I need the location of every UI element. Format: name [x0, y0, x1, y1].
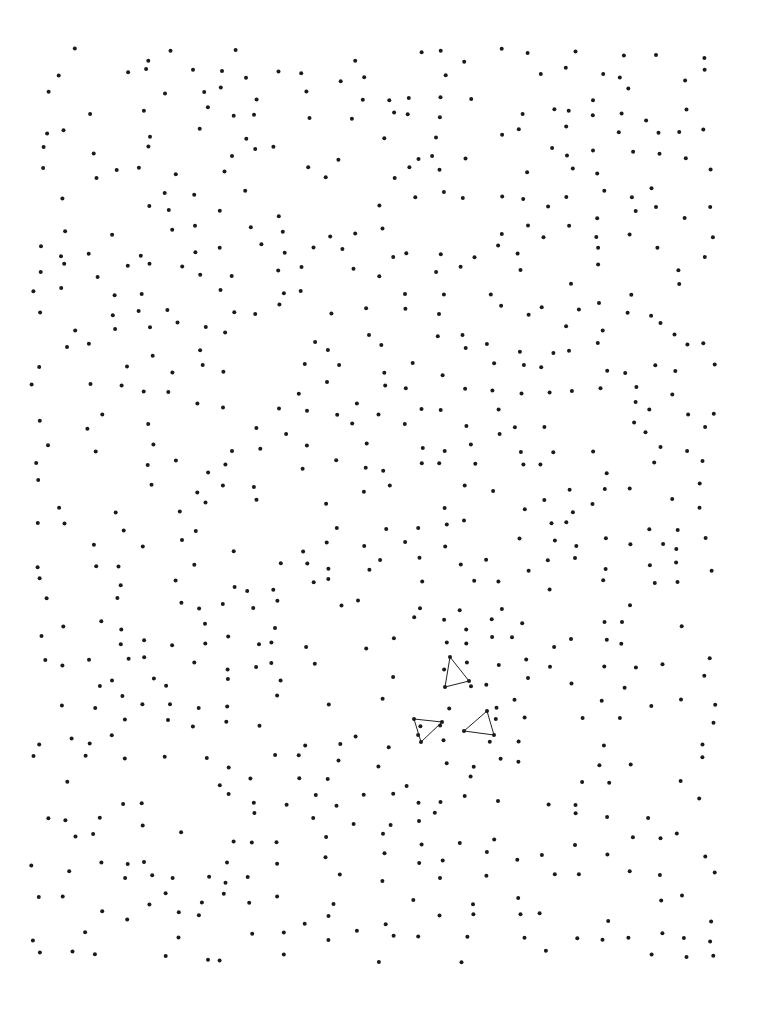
- dot: [279, 561, 283, 565]
- dot: [411, 361, 415, 365]
- dot: [224, 881, 228, 885]
- dot: [308, 116, 312, 120]
- dot: [622, 53, 626, 57]
- dot: [152, 676, 156, 680]
- dot: [282, 931, 286, 935]
- dot: [628, 603, 632, 607]
- dot: [123, 876, 127, 880]
- dot: [248, 776, 252, 780]
- dot: [337, 759, 341, 763]
- dot: [464, 346, 468, 350]
- dot: [257, 642, 261, 646]
- dot: [258, 724, 262, 728]
- dot: [626, 936, 630, 940]
- dot: [194, 529, 198, 533]
- dot: [492, 361, 496, 365]
- dot: [464, 628, 468, 632]
- dot: [31, 289, 35, 293]
- dot: [469, 775, 473, 779]
- dot: [698, 481, 702, 485]
- dot: [340, 604, 344, 608]
- dot: [657, 131, 661, 135]
- dot: [43, 658, 47, 662]
- dot: [303, 922, 307, 926]
- dot: [516, 896, 520, 900]
- dot: [367, 568, 371, 572]
- dot: [603, 620, 607, 624]
- dot: [206, 471, 210, 475]
- dot: [243, 189, 247, 193]
- dot: [335, 526, 339, 530]
- dot: [382, 136, 386, 140]
- dot: [382, 371, 386, 375]
- dot: [45, 131, 49, 135]
- dot: [603, 487, 607, 491]
- dot: [659, 836, 663, 840]
- dot: [647, 527, 651, 531]
- dot: [712, 412, 716, 416]
- dot: [122, 529, 126, 533]
- dot: [303, 362, 307, 366]
- dot: [569, 637, 573, 641]
- dot: [98, 816, 102, 820]
- dot: [383, 383, 387, 387]
- dot: [571, 510, 575, 514]
- dot: [275, 840, 279, 844]
- dot: [634, 385, 638, 389]
- dot: [521, 463, 525, 467]
- dot: [110, 679, 114, 683]
- dot: [38, 576, 42, 580]
- dot: [340, 247, 344, 251]
- dot: [326, 938, 330, 942]
- dot: [404, 386, 408, 390]
- dot: [140, 801, 144, 805]
- dot: [114, 511, 118, 515]
- dot: [604, 567, 608, 571]
- dot: [628, 233, 632, 237]
- dot: [650, 186, 654, 190]
- dot: [303, 743, 307, 747]
- dot: [203, 622, 207, 626]
- dot: [202, 90, 206, 94]
- dot: [207, 875, 211, 879]
- dot: [573, 843, 577, 847]
- dot: [126, 70, 130, 74]
- dot: [546, 205, 550, 209]
- dot: [250, 932, 254, 936]
- dot: [441, 858, 445, 862]
- dot: [36, 478, 40, 482]
- dot: [334, 458, 338, 462]
- dot: [568, 488, 572, 492]
- dot: [244, 137, 248, 141]
- dot: [437, 312, 441, 316]
- dot: [515, 858, 519, 862]
- dot: [660, 931, 664, 935]
- dot: [601, 329, 605, 333]
- dot: [698, 506, 702, 510]
- dot: [653, 363, 657, 367]
- dot: [462, 519, 466, 523]
- dot: [226, 667, 230, 671]
- dot: [99, 619, 103, 623]
- dot: [605, 471, 609, 475]
- dot: [99, 861, 103, 865]
- dot: [498, 432, 502, 436]
- dot: [540, 305, 544, 309]
- dot: [438, 115, 442, 119]
- dot: [92, 543, 96, 547]
- dot: [434, 136, 438, 140]
- triangle-vertex-dot: [485, 709, 489, 713]
- dot: [420, 842, 424, 846]
- dot: [673, 333, 677, 337]
- dot: [484, 874, 488, 878]
- dot: [245, 589, 249, 593]
- dot: [193, 250, 197, 254]
- dot: [232, 840, 236, 844]
- dot: [686, 413, 690, 417]
- dot: [710, 569, 714, 573]
- triangle-vertex-dot: [462, 729, 466, 733]
- dot: [442, 738, 446, 742]
- dot: [170, 228, 174, 232]
- dot: [125, 364, 129, 368]
- dot: [629, 762, 633, 766]
